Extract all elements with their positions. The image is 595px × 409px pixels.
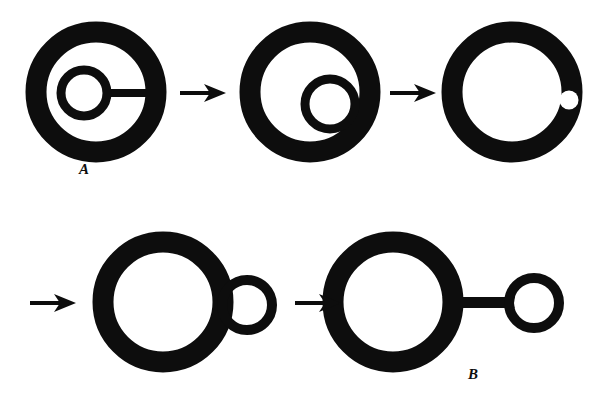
stage-label-a: A bbox=[79, 161, 90, 178]
panel-5-outer-ring bbox=[333, 242, 453, 362]
stage-label-b: B bbox=[468, 366, 479, 383]
panel-4-outer-ring bbox=[103, 242, 223, 362]
panel-2-inner-ring bbox=[305, 79, 355, 129]
arrow-1-shaft bbox=[180, 91, 212, 95]
panel-3-outer-ring bbox=[452, 32, 572, 152]
panel-1-group bbox=[36, 32, 156, 152]
panel-4-group bbox=[103, 242, 272, 362]
arrow-2-shaft bbox=[390, 91, 422, 95]
arrow-3 bbox=[30, 294, 76, 312]
panel-3-white-vesicle bbox=[560, 91, 578, 109]
arrow-2 bbox=[390, 84, 436, 102]
arrow-3-shaft bbox=[30, 301, 62, 305]
arrow-4-shaft bbox=[295, 301, 327, 305]
panel-5-group bbox=[333, 242, 559, 362]
panel-2-group bbox=[250, 32, 370, 152]
panel-3-group bbox=[452, 32, 572, 152]
figure-canvas bbox=[0, 0, 595, 409]
arrow-1 bbox=[180, 84, 226, 102]
figure-container: A B bbox=[0, 0, 595, 409]
panel-1-connector-bar bbox=[84, 89, 150, 97]
